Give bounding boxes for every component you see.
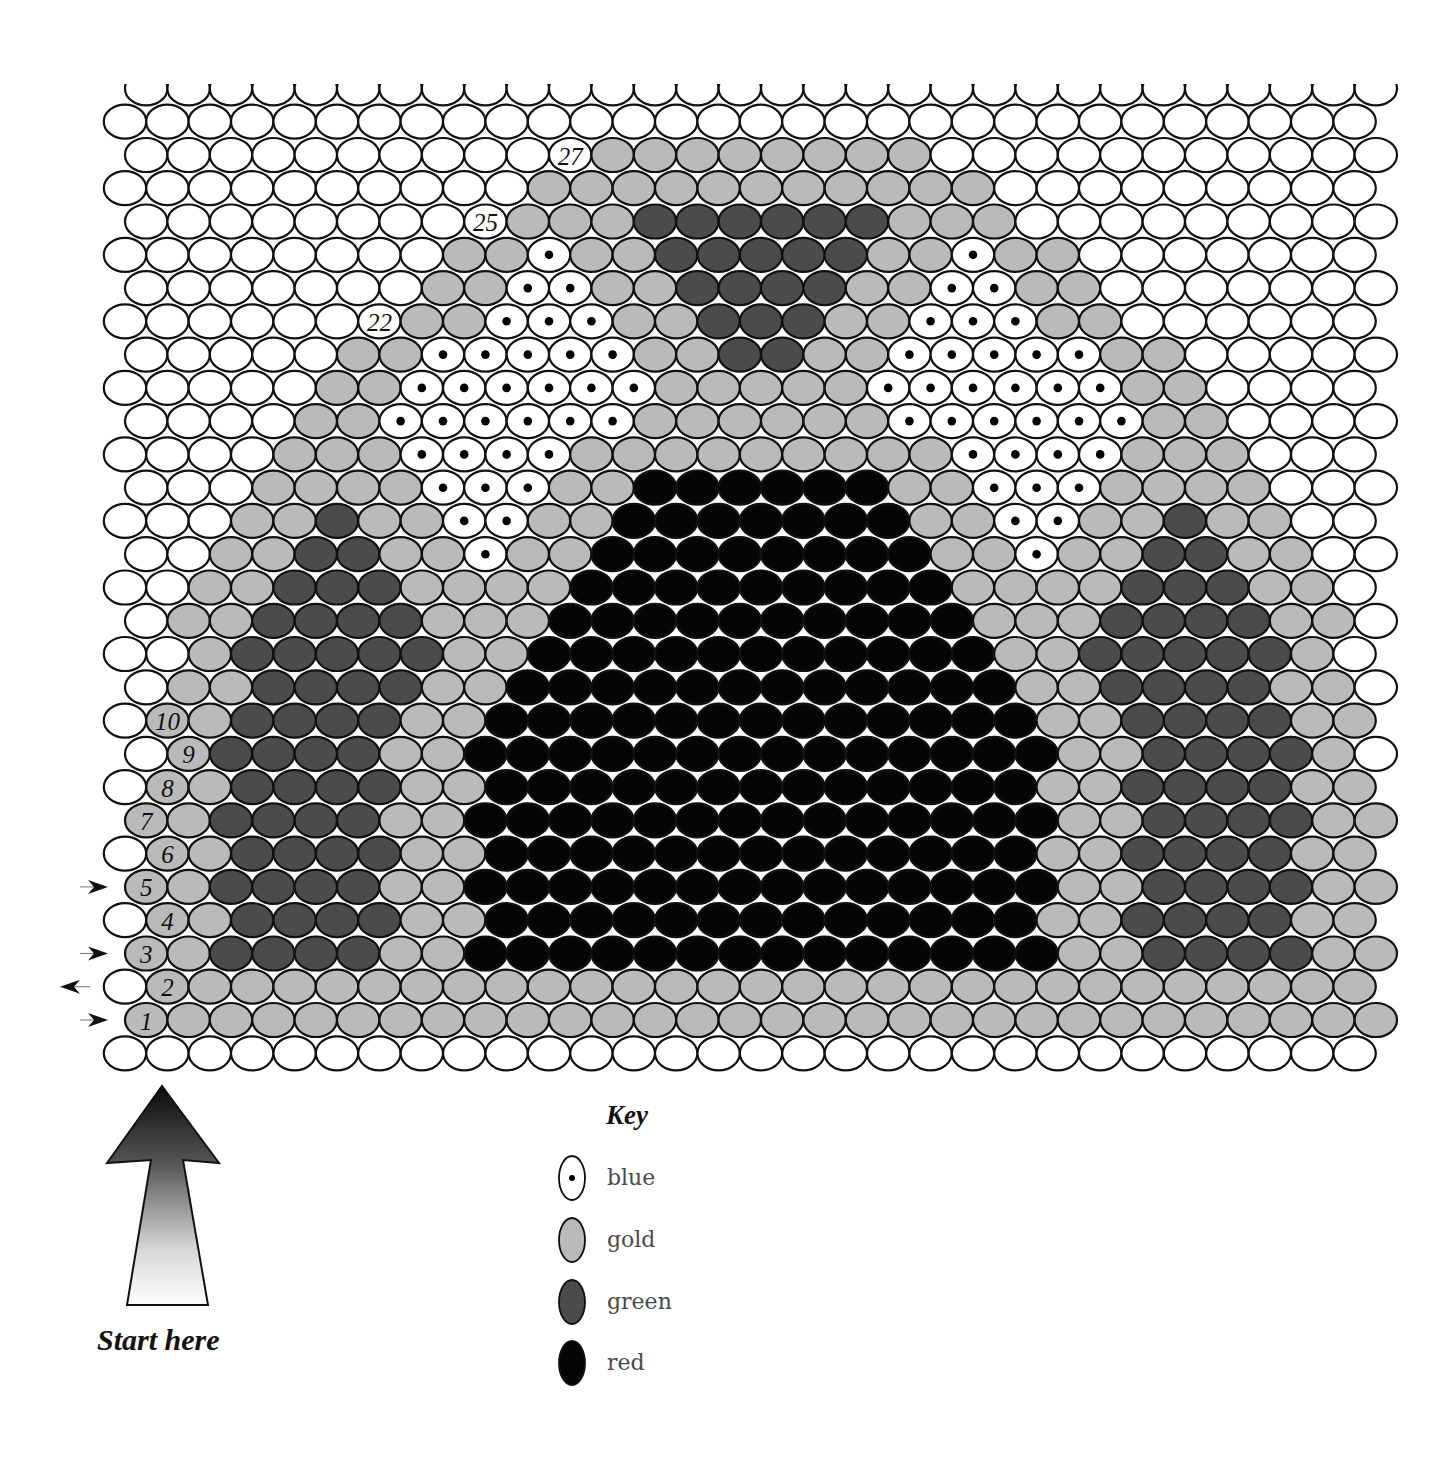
red-bead: [782, 903, 824, 937]
red-bead: [464, 937, 506, 971]
red-bead: [888, 737, 930, 771]
red-bead: [952, 704, 994, 738]
white-bead: [1227, 338, 1269, 372]
red-bead: [888, 537, 930, 571]
gold-bead: [507, 604, 549, 638]
gold-bead: [358, 437, 400, 471]
green-bead: [252, 737, 294, 771]
blue-bead-dot-icon: [948, 284, 957, 293]
red-bead: [655, 504, 697, 538]
red-bead: [782, 504, 824, 538]
gold-bead: [443, 837, 485, 871]
red-bead: [549, 870, 591, 904]
gold-bead: [1058, 870, 1100, 904]
blue-bead-dot-icon: [1096, 450, 1105, 459]
green-bead: [210, 737, 252, 771]
legend-item-red: red: [559, 1341, 645, 1385]
green-bead: [1185, 803, 1227, 837]
red-bead: [570, 770, 612, 804]
white-bead: [1164, 105, 1206, 139]
gold-bead: [379, 870, 421, 904]
white-bead: [443, 171, 485, 205]
white-bead: [379, 271, 421, 305]
white-bead: [1312, 338, 1354, 372]
red-bead: [464, 737, 506, 771]
white-bead: [464, 138, 506, 172]
blue-bead-dot-icon: [926, 384, 935, 393]
gold-bead: [697, 371, 739, 405]
gold-bead: [1100, 1003, 1142, 1037]
gold-bead: [189, 770, 231, 804]
gold-bead: [994, 970, 1036, 1004]
bead-row-9: [125, 737, 1397, 771]
green-bead: [1249, 704, 1291, 738]
white-bead: [1355, 471, 1397, 505]
red-bead: [761, 937, 803, 971]
gold-bead: [719, 138, 761, 172]
gold-bead: [1037, 637, 1079, 671]
red-bead: [867, 571, 909, 605]
green-bead: [295, 604, 337, 638]
white-bead: [295, 205, 337, 239]
white-bead: [252, 338, 294, 372]
gold-bead: [1312, 803, 1354, 837]
green-bead: [1143, 803, 1185, 837]
red-bead: [740, 837, 782, 871]
white-bead: [167, 205, 209, 239]
gold-bead: [613, 437, 655, 471]
blue-bead-dot-icon: [948, 417, 957, 426]
gold-bead: [1079, 770, 1121, 804]
red-bead: [591, 870, 633, 904]
blue-bead-dot-icon: [1075, 483, 1084, 492]
white-bead: [549, 71, 591, 105]
gold-bead: [549, 205, 591, 239]
red-bead: [697, 571, 739, 605]
white-bead: [994, 171, 1036, 205]
green-bead: [655, 238, 697, 272]
bead-row-19: [125, 404, 1397, 438]
gold-bead: [422, 870, 464, 904]
gold-bead: [167, 670, 209, 704]
white-bead: [761, 71, 803, 105]
gold-bead: [1164, 437, 1206, 471]
white-bead: [1037, 105, 1079, 139]
red-bead: [528, 770, 570, 804]
gold-bead: [252, 471, 294, 505]
white-bead: [1312, 271, 1354, 305]
white-bead: [1185, 205, 1227, 239]
white-bead: [528, 1036, 570, 1070]
red-bead: [846, 670, 888, 704]
red-bead: [719, 803, 761, 837]
gold-bead: [1312, 1003, 1354, 1037]
gold-bead: [994, 637, 1036, 671]
gold-bead: [1270, 537, 1312, 571]
blue-bead-dot-icon: [1011, 317, 1020, 326]
gold-bead: [803, 338, 845, 372]
white-bead: [337, 205, 379, 239]
gold-bead: [1037, 770, 1079, 804]
red-bead: [825, 704, 867, 738]
gold-bead: [1058, 271, 1100, 305]
white-bead: [888, 71, 930, 105]
gold-bead: [443, 770, 485, 804]
green-bead: [1227, 737, 1269, 771]
white-bead: [358, 1036, 400, 1070]
gold-bead: [867, 171, 909, 205]
green-bead: [337, 537, 379, 571]
red-bead: [655, 704, 697, 738]
green-bead: [1185, 937, 1227, 971]
gold-bead: [1100, 870, 1142, 904]
legend-item-gold: gold: [559, 1218, 655, 1262]
gold-bead: [909, 238, 951, 272]
row-number-label: 5: [140, 874, 153, 901]
gold-bead: [803, 138, 845, 172]
green-bead: [295, 737, 337, 771]
white-bead: [507, 138, 549, 172]
gold-bead: [1058, 1003, 1100, 1037]
red-bead: [888, 803, 930, 837]
white-bead: [125, 338, 167, 372]
red-bead: [846, 471, 888, 505]
blue-bead-dot-icon: [481, 417, 490, 426]
gold-bead: [676, 338, 718, 372]
gold-bead: [867, 970, 909, 1004]
